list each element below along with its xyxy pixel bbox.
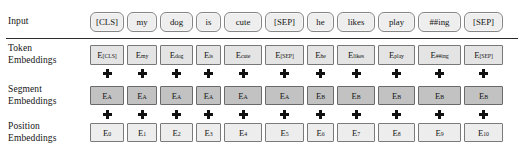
position-embeddings-cell: E6	[307, 123, 334, 142]
plus-operator	[90, 108, 124, 120]
input-token-row: [CLS]mydogiscute[SEP]helikesplay##ing[SE…	[90, 12, 518, 32]
segment-embeddings-cell: EA	[265, 86, 304, 105]
token-embeddings-cell: Ecute	[224, 45, 262, 65]
row-label-segment-line1: Segment	[8, 84, 42, 94]
plus-operator	[378, 67, 415, 79]
input-token-cell: my	[127, 12, 157, 32]
plus-icon	[316, 110, 325, 119]
row-label-position-line1: Position	[8, 121, 40, 131]
input-token-cell: [CLS]	[90, 12, 124, 32]
token-embeddings-cell: Elikes	[337, 45, 375, 65]
token-embeddings-cell: Edog	[160, 45, 193, 65]
plus-icon	[172, 110, 181, 119]
plus-operator	[160, 108, 193, 120]
input-token-cell: dog	[160, 12, 193, 32]
plus-operator	[127, 67, 157, 79]
embedding-subscript: dog	[175, 53, 183, 59]
embedding-subscript: 3	[210, 131, 213, 137]
embedding-subscript: [CLS]	[103, 53, 117, 59]
position-embedding-row: E0E1E2E3E4E5E6E7E8E9E10	[90, 123, 518, 142]
plus-icon	[392, 69, 401, 78]
segment-embeddings-cell: EB	[418, 86, 461, 105]
embedding-subscript: B	[321, 94, 325, 100]
embedding-subscript: cute	[241, 53, 250, 59]
token-embeddings-cell: Eis	[196, 45, 221, 65]
position-embeddings-cell: E4	[224, 123, 262, 142]
token-embeddings-cell: Ehe	[307, 45, 334, 65]
input-token-cell: he	[307, 12, 334, 32]
row-label-token-embeddings: Token Embeddings	[8, 43, 88, 66]
input-token-cell: ##ing	[418, 12, 461, 32]
plus-icon	[392, 110, 401, 119]
plus-operator	[464, 108, 503, 120]
input-token-cell: play	[378, 12, 415, 32]
token-embeddings-cell: E[SEP]	[265, 45, 304, 65]
token-embeddings-cell: Emy	[127, 45, 157, 65]
input-token-cell: likes	[337, 12, 375, 32]
input-token-cell: [SEP]	[464, 12, 503, 32]
plus-icon	[138, 69, 147, 78]
plus-operator	[224, 67, 262, 79]
embedding-subscript: is	[209, 53, 213, 59]
plus-operator	[196, 108, 221, 120]
embedding-subscript: A	[285, 94, 289, 100]
plus-operator	[307, 108, 334, 120]
plus-icon	[352, 110, 361, 119]
segment-embeddings-cell: EA	[90, 86, 124, 105]
position-embeddings-cell: E2	[160, 123, 193, 142]
embedding-subscript: he	[320, 53, 325, 59]
embedding-subscript: my	[141, 53, 148, 59]
input-token-cell: cute	[224, 12, 262, 32]
position-embeddings-cell: E1	[127, 123, 157, 142]
input-section-divider	[6, 38, 518, 39]
embedding-subscript: B	[484, 94, 488, 100]
segment-embeddings-cell: EB	[378, 86, 415, 105]
bert-input-representation-figure: Input Token Embeddings Segment Embedding…	[0, 0, 522, 151]
plus-operator	[196, 67, 221, 79]
embedding-subscript: A	[143, 94, 147, 100]
row-label-input-line1: Input	[8, 16, 29, 26]
plus-operator	[464, 67, 503, 79]
segment-embeddings-cell: EA	[196, 86, 221, 105]
segment-embedding-row: EAEAEAEAEAEAEBEBEBEBEB	[90, 86, 518, 105]
embedding-subscript: B	[357, 94, 361, 100]
plus-operator	[160, 67, 193, 79]
token-embeddings-cell: E[CLS]	[90, 45, 124, 65]
embedding-subscript: 4	[244, 131, 247, 137]
embedding-subscript: [SEP]	[479, 53, 492, 59]
segment-embeddings-cell: EA	[224, 86, 262, 105]
embedding-subscript: B	[440, 94, 444, 100]
plus-icon	[239, 110, 248, 119]
segment-embeddings-cell: EB	[337, 86, 375, 105]
row-label-segment-embeddings: Segment Embeddings	[8, 84, 88, 107]
segment-embeddings-cell: EA	[160, 86, 193, 105]
position-embeddings-cell: E8	[378, 123, 415, 142]
position-embeddings-cell: E0	[90, 123, 124, 142]
position-embeddings-cell: E5	[265, 123, 304, 142]
plus-icon	[316, 69, 325, 78]
plus-icon	[479, 110, 488, 119]
plus-operator	[127, 108, 157, 120]
row-label-token-line1: Token	[8, 43, 32, 53]
token-embeddings-cell: E##ing	[418, 45, 461, 65]
embedding-subscript: play	[394, 53, 404, 59]
embedding-subscript: A	[108, 94, 112, 100]
embedding-subscript: 10	[483, 131, 489, 137]
plus-operator	[378, 108, 415, 120]
segment-embeddings-cell: EB	[307, 86, 334, 105]
position-embeddings-cell: E9	[418, 123, 461, 142]
plus-operator-row-segment-position	[90, 108, 518, 120]
plus-operator	[224, 108, 262, 120]
input-token-cell: is	[196, 12, 221, 32]
input-token-cell: [SEP]	[265, 12, 304, 32]
plus-operator	[337, 67, 375, 79]
position-embeddings-cell: E3	[196, 123, 221, 142]
position-embeddings-cell: E10	[464, 123, 503, 142]
embedding-subscript: [SEP]	[280, 53, 293, 59]
plus-operator	[418, 108, 461, 120]
plus-operator	[418, 67, 461, 79]
embedding-subscript: 8	[398, 131, 401, 137]
embedding-subscript: 0	[108, 131, 111, 137]
embedding-subscript: 1	[143, 131, 146, 137]
position-embeddings-cell: E7	[337, 123, 375, 142]
